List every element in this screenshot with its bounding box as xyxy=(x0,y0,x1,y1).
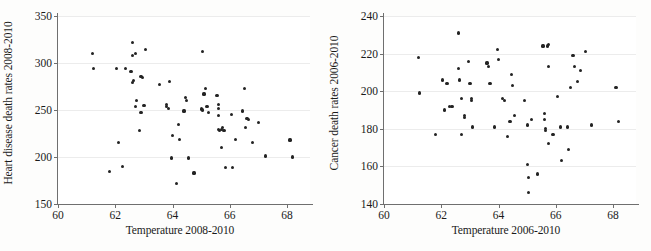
scatter-point xyxy=(144,48,147,51)
scatter-point xyxy=(530,118,533,121)
x-tick-label: 62 xyxy=(436,209,448,221)
scatter-point xyxy=(251,141,254,144)
scatter-point xyxy=(434,133,437,136)
x-tick-label: 68 xyxy=(281,209,293,221)
gridline-y xyxy=(384,91,636,92)
scatter-point xyxy=(207,111,210,114)
gridline-y xyxy=(58,16,310,17)
y-tick-label: 240 xyxy=(361,10,378,22)
scatter-point xyxy=(217,107,220,110)
scatter-point xyxy=(135,99,138,102)
scatter-point xyxy=(117,141,120,144)
y-axis-title-left: Heart disease death rates 2008-2010 xyxy=(2,0,18,208)
x-tick-mark xyxy=(173,204,174,208)
x-tick-label: 60 xyxy=(52,209,64,221)
scatter-point xyxy=(536,172,539,175)
y-axis-title-right: Cancer death rates 2006-2010 xyxy=(328,0,344,208)
scatter-point xyxy=(543,112,546,115)
scatter-point xyxy=(579,69,582,72)
scatter-point xyxy=(468,82,471,85)
scatter-point xyxy=(510,73,513,76)
scatter-point xyxy=(108,170,111,173)
scatter-point xyxy=(458,78,461,81)
scatter-point xyxy=(485,61,488,64)
scatter-point xyxy=(541,44,544,47)
scatter-point xyxy=(158,83,161,86)
plot-area-left: 1502002503003506062646668 xyxy=(58,16,310,204)
scatter-point xyxy=(204,87,207,90)
x-tick-label: 64 xyxy=(493,209,505,221)
scatter-point xyxy=(443,108,446,111)
y-tick-label: 300 xyxy=(35,57,52,69)
x-tick-mark xyxy=(230,204,231,208)
scatter-point xyxy=(175,182,178,185)
x-tick-label: 64 xyxy=(167,209,179,221)
y-tick-label: 220 xyxy=(361,48,378,60)
y-tick-label: 140 xyxy=(361,198,378,210)
scatter-point xyxy=(247,118,250,121)
x-tick-mark xyxy=(499,204,500,208)
scatter-point xyxy=(487,65,490,68)
y-tick-mark xyxy=(54,16,58,17)
scatter-point xyxy=(471,125,474,128)
scatter-point xyxy=(291,155,294,158)
scatter-point xyxy=(506,135,509,138)
y-tick-mark xyxy=(54,110,58,111)
scatter-point xyxy=(115,67,118,70)
x-axis-title-right: Temperature 2006-2010 xyxy=(366,224,646,236)
scatter-point xyxy=(124,67,127,70)
gridline-y xyxy=(58,63,310,64)
y-tick-mark xyxy=(380,129,384,130)
scatter-point xyxy=(527,176,530,179)
scatter-point xyxy=(543,118,546,121)
figure-page: Heart disease death rates 2008-2010 1502… xyxy=(0,0,651,251)
scatter-point xyxy=(451,105,454,108)
scatter-point xyxy=(497,58,500,61)
scatter-point xyxy=(527,191,530,194)
scatter-point xyxy=(457,31,460,34)
scatter-point xyxy=(243,87,246,90)
scatter-point xyxy=(513,114,516,117)
scatter-point xyxy=(201,50,204,53)
scatter-point xyxy=(171,134,174,137)
scatter-point xyxy=(222,129,225,132)
scatter-point xyxy=(511,84,514,87)
scatter-point xyxy=(91,52,94,55)
gridline-y xyxy=(384,16,636,17)
x-tick-mark xyxy=(613,204,614,208)
y-tick-mark xyxy=(380,54,384,55)
scatter-point xyxy=(488,82,491,85)
scatter-point xyxy=(244,126,247,129)
scatter-point xyxy=(614,86,617,89)
scatter-point xyxy=(457,67,460,70)
x-tick-mark xyxy=(287,204,288,208)
scatter-point xyxy=(567,148,570,151)
y-tick-mark xyxy=(54,63,58,64)
scatter-point xyxy=(556,95,559,98)
scatter-point xyxy=(92,67,95,70)
scatter-point xyxy=(590,123,593,126)
scatter-chart-cancer: Cancer death rates 2006-2010 14016018020… xyxy=(326,0,651,251)
x-tick-label: 68 xyxy=(607,209,619,221)
scatter-point xyxy=(138,129,141,132)
scatter-point xyxy=(470,99,473,102)
y-tick-mark xyxy=(380,166,384,167)
scatter-point xyxy=(187,156,190,159)
scatter-point xyxy=(220,146,223,149)
scatter-point xyxy=(224,166,227,169)
scatter-chart-heart-disease: Heart disease death rates 2008-2010 1502… xyxy=(0,0,325,251)
x-tick-mark xyxy=(58,204,59,208)
scatter-point xyxy=(467,60,470,63)
x-axis-title-left: Temperature 2008-2010 xyxy=(40,224,320,236)
scatter-point xyxy=(551,133,554,136)
scatter-point xyxy=(182,109,185,112)
gridline-y xyxy=(384,166,636,167)
scatter-point xyxy=(445,82,448,85)
scatter-point xyxy=(141,76,144,79)
gridline-y xyxy=(58,157,310,158)
x-tick-mark xyxy=(115,204,116,208)
scatter-point xyxy=(231,166,234,169)
scatter-point xyxy=(192,171,195,174)
scatter-point xyxy=(139,111,142,114)
scatter-point xyxy=(201,108,204,111)
